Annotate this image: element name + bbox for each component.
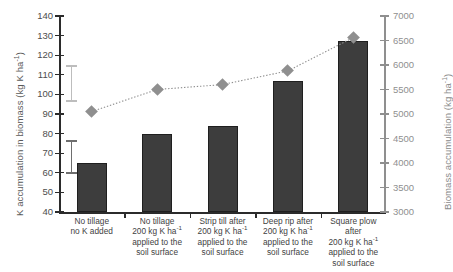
y-ticklabel-left-70: 70 xyxy=(42,147,53,158)
category-line-4: soil surface xyxy=(256,247,319,257)
category-line-1: No tillage xyxy=(60,216,123,226)
category-line-1: Square plow after xyxy=(322,216,385,237)
category-line-4: soil surface xyxy=(322,258,385,268)
y-ticklabel-right-3000: 3000 xyxy=(393,206,414,217)
y-axis-right-title-text: Biomass accumulation (kg ha xyxy=(442,83,453,210)
category-line-2: 200 kg K ha-1 xyxy=(125,226,188,236)
x-axis-category-labels: No tillageno K addedNo tillage200 kg K h… xyxy=(59,216,386,268)
plot-area: 405060708090100110120130140 300035004000… xyxy=(59,16,386,212)
y-axis-left-title-text: K accumulation in biomass (kg K ha xyxy=(14,62,25,216)
category-line-2: 200 kg K ha-1 xyxy=(256,226,319,236)
y-ticklabel-right-3500: 3500 xyxy=(393,182,414,193)
y-ticklabel-left-100: 100 xyxy=(37,88,53,99)
y-ticklabel-right-5000: 5000 xyxy=(393,108,414,119)
category-line-3: applied to the xyxy=(125,237,188,247)
category-line-2: 200 kg K ha-1 xyxy=(191,226,254,236)
y-axis-right-title-sup: -1 xyxy=(441,77,448,83)
y-ticklabel-left-60: 60 xyxy=(42,167,53,178)
category-line-4: soil surface xyxy=(191,247,254,257)
y-ticklabel-right-6000: 6000 xyxy=(393,59,414,70)
category-line-3: applied to the xyxy=(191,237,254,247)
y-ticklabel-left-40: 40 xyxy=(42,206,53,217)
y-ticklabel-left-140: 140 xyxy=(37,10,53,21)
y-ticklabel-left-90: 90 xyxy=(42,108,53,119)
y-ticklabel-right-5500: 5500 xyxy=(393,84,414,95)
y-ticklabel-left-130: 130 xyxy=(37,30,53,41)
y-axis-right-title: Biomass accumulation (kg ha-1) xyxy=(441,74,453,210)
y-ticklabel-left-110: 110 xyxy=(38,69,53,80)
y-axis-left-title-sup: -1 xyxy=(13,55,20,61)
y-ticklabel-left-50: 50 xyxy=(42,186,53,197)
y-axis-right-title-end: ) xyxy=(442,74,453,77)
category-line-2: 200 kg K ha-1 xyxy=(322,237,385,247)
category-label-1: No tillage200 kg K ha-1applied to thesoi… xyxy=(124,216,189,268)
y-ticklabel-right-6500: 6500 xyxy=(393,35,414,46)
y-axis-left-title-end: ) xyxy=(14,52,25,55)
category-line-3: applied to the xyxy=(322,247,385,257)
y-ticklabel-left-80: 80 xyxy=(42,128,53,139)
category-line-4: soil surface xyxy=(125,247,188,257)
category-label-2: Strip till after200 kg K ha-1applied to … xyxy=(190,216,255,268)
y-axis-left-title: K accumulation in biomass (kg K ha-1) xyxy=(13,52,25,216)
y-ticklabel-right-7000: 7000 xyxy=(393,10,414,21)
category-line-2: no K added xyxy=(60,226,123,236)
category-line-3: applied to the xyxy=(256,237,319,247)
category-label-3: Deep rip after200 kg K ha-1applied to th… xyxy=(255,216,320,268)
biomass-line-path xyxy=(92,38,354,112)
category-label-0: No tillageno K added xyxy=(59,216,124,268)
x-axis-line xyxy=(59,212,386,214)
line-series-biomass xyxy=(59,16,386,212)
y-ticklabel-left-120: 120 xyxy=(37,49,53,60)
y-ticklabel-right-4500: 4500 xyxy=(393,133,414,144)
y-ticklabel-right-4000: 4000 xyxy=(393,157,414,168)
category-label-4: Square plow after200 kg K ha-1applied to… xyxy=(321,216,386,268)
